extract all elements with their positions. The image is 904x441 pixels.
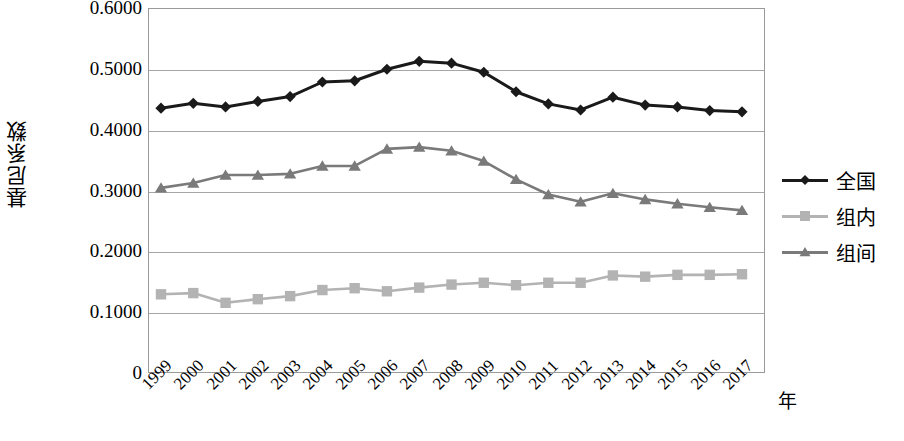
legend-key-icon (782, 243, 828, 261)
data-point (575, 278, 585, 288)
legend-label: 组内 (836, 202, 876, 231)
data-point (479, 278, 489, 288)
data-point (608, 270, 618, 280)
legend-key-icon (782, 171, 828, 189)
data-point (640, 271, 650, 281)
y-axis-title: 基尼系数 (6, 120, 40, 208)
data-point (510, 174, 522, 184)
data-point (285, 291, 295, 301)
data-point (542, 189, 554, 199)
data-point (446, 58, 457, 69)
legend-label: 组间 (836, 238, 876, 267)
y-tick-label: 0 (46, 363, 142, 382)
legend-marker-triangle-icon (799, 246, 811, 258)
data-point (543, 98, 554, 109)
series-layer (149, 9, 766, 374)
gini-coefficient-line-chart: 基尼系数 00.10000.20000.30000.40000.50000.60… (0, 0, 904, 441)
series-2 (156, 269, 747, 308)
y-axis-tick-labels: 00.10000.20000.30000.40000.50000.6000 (38, 0, 142, 441)
y-tick-label: 0.4000 (46, 120, 142, 139)
data-point (607, 92, 618, 103)
legend-key-icon (782, 207, 828, 225)
data-point (156, 289, 166, 299)
data-point (220, 298, 230, 308)
y-tick-label: 0.5000 (46, 59, 142, 78)
data-point (285, 91, 296, 102)
legend-label: 全国 (836, 166, 876, 195)
data-point (253, 294, 263, 304)
y-tick-label: 0.2000 (46, 241, 142, 260)
y-tick-label: 0.6000 (46, 0, 142, 17)
data-point (317, 285, 327, 295)
series-line (161, 61, 742, 111)
data-point (672, 101, 683, 112)
data-point (188, 98, 199, 109)
data-point (575, 104, 586, 115)
data-point (737, 269, 747, 279)
data-point (382, 286, 392, 296)
data-point (511, 280, 521, 290)
data-point (414, 282, 424, 292)
data-point (220, 101, 231, 112)
data-point (349, 283, 359, 293)
legend-item-全国[interactable]: 全国 (782, 162, 900, 198)
data-point (188, 288, 198, 298)
data-point (349, 75, 360, 86)
data-point (736, 106, 747, 117)
y-tick-label: 0.1000 (46, 302, 142, 321)
x-axis-unit-label: 年 (778, 386, 797, 413)
data-point (543, 278, 553, 288)
data-point (446, 279, 456, 289)
series-1 (155, 56, 747, 118)
y-tick-label: 0.3000 (46, 181, 142, 200)
data-point (317, 76, 328, 87)
data-point (704, 105, 715, 116)
data-point (640, 100, 651, 111)
x-axis-tick-labels: 1999200020012002200320042005200620072008… (148, 374, 765, 436)
legend-item-组间[interactable]: 组间 (782, 234, 900, 270)
chart-legend: 全国组内组间 (782, 162, 900, 270)
data-point (705, 270, 715, 280)
legend-marker-square-icon (799, 210, 811, 222)
data-point (672, 270, 682, 280)
data-point (414, 56, 425, 67)
plot-area (148, 8, 765, 373)
series-line (161, 147, 742, 210)
data-point (252, 96, 263, 107)
data-point (381, 64, 392, 75)
legend-marker-diamond-icon (799, 174, 811, 186)
data-point (155, 103, 166, 114)
legend-item-组内[interactable]: 组内 (782, 198, 900, 234)
series-3 (155, 141, 748, 215)
